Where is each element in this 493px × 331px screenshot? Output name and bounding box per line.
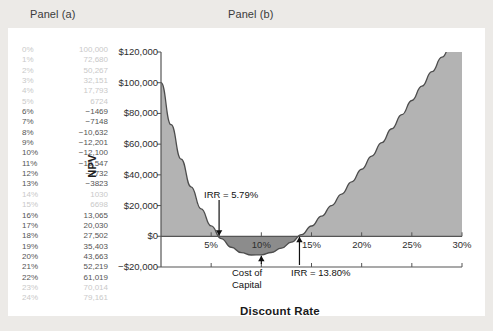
y-axis-label: NPV xyxy=(86,146,98,186)
npv-profile-chart: $120,000$100,000$80,000$60,000$40,000$20… xyxy=(0,0,493,331)
annotation-irr-high: IRR = 13.80% xyxy=(291,267,350,278)
y-tick-label: −$20,000 xyxy=(96,261,158,272)
x-tick-label: 5% xyxy=(188,239,234,250)
x-tick-label: 20% xyxy=(339,239,385,250)
y-tick-label: $100,000 xyxy=(96,77,158,88)
x-tick-label: 10% xyxy=(238,239,284,250)
y-tick-label: $20,000 xyxy=(96,200,158,211)
x-tick-label: 25% xyxy=(389,239,435,250)
y-tick-label: $0 xyxy=(96,230,158,241)
x-axis-label: Discount Rate xyxy=(240,305,320,317)
area-fill-positive xyxy=(161,28,462,255)
x-tick-label: 15% xyxy=(289,239,335,250)
y-tick-label: $80,000 xyxy=(96,107,158,118)
annotation-cost-of-capital-line1: Cost of xyxy=(232,267,262,278)
annotation-irr-low: IRR = 5.79% xyxy=(204,189,258,200)
arrow-cost-of-capital-head xyxy=(258,256,264,262)
y-tick-label: $60,000 xyxy=(96,138,158,149)
y-tick-label: $120,000 xyxy=(96,46,158,57)
x-tick-label: 30% xyxy=(439,239,485,250)
y-tick-label: $40,000 xyxy=(96,169,158,180)
annotation-cost-of-capital-line2: Capital xyxy=(232,279,262,290)
